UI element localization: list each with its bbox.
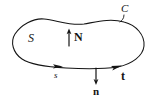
arc-length-label-s: s [54,71,58,80]
normal-vector-label-N: N [74,31,83,43]
normal-vector-N-arrow [67,29,72,47]
figure-canvas [0,0,157,103]
normal-vector-label-n: n [93,86,99,97]
surface-label-S: S [28,32,34,44]
curve-label-C: C [121,3,128,14]
normal-vector-n-arrow [94,68,99,85]
stokes-theorem-figure: S C N n t s [0,0,157,103]
tangent-vector-label-t: t [121,70,125,82]
